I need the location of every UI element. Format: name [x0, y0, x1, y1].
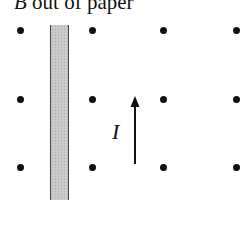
field-out-of-page-dot-icon — [89, 164, 96, 171]
field-out-of-page-dot-icon — [89, 96, 96, 103]
title-text: out of paper — [27, 0, 134, 14]
field-out-of-page-dot-icon — [160, 164, 167, 171]
field-out-of-page-dot-icon — [233, 96, 240, 103]
field-out-of-page-dot-icon — [17, 164, 24, 171]
field-out-of-page-dot-icon — [233, 164, 240, 171]
field-out-of-page-dot-icon — [233, 27, 240, 34]
field-out-of-page-dot-icon — [89, 27, 96, 34]
field-out-of-page-dot-icon — [160, 27, 167, 34]
field-out-of-page-dot-icon — [160, 96, 167, 103]
conducting-strip — [50, 25, 69, 200]
field-out-of-page-dot-icon — [17, 96, 24, 103]
field-out-of-page-dot-icon — [17, 27, 24, 34]
current-label: I — [112, 119, 119, 145]
magnetic-field-symbol: B — [14, 0, 27, 14]
field-direction-title: B out of paper — [14, 0, 134, 12]
current-arrow-up-icon — [128, 96, 142, 166]
